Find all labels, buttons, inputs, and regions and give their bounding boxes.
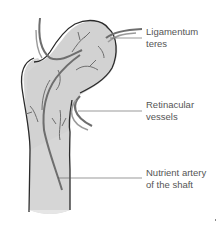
label-line: Nutrient artery (146, 167, 206, 179)
label-line: Ligamentum (146, 26, 198, 38)
corner-mark (215, 219, 216, 221)
label-line: of the shaft (146, 179, 206, 191)
femur-blood-supply-diagram: Ligamentum teres Retinacular vessels Nut… (0, 0, 219, 227)
label-line: vessels (146, 111, 194, 123)
label-nutrient-artery: Nutrient artery of the shaft (146, 167, 206, 191)
femur-base (29, 210, 70, 214)
retinacular-vessel-2 (72, 100, 88, 130)
label-retinacular-vessels: Retinacular vessels (146, 99, 194, 123)
label-line: Retinacular (146, 99, 194, 111)
label-line: teres (146, 38, 198, 50)
label-ligamentum-teres: Ligamentum teres (146, 26, 198, 50)
